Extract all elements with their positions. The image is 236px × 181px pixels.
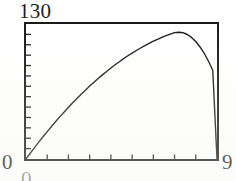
x-max-label: 9 xyxy=(222,152,233,173)
plot-frame xyxy=(24,22,219,161)
y-max-label: 130 xyxy=(19,1,51,22)
data-curve xyxy=(26,32,217,159)
y-axis-ticks xyxy=(26,34,31,148)
y-min-label: 0 xyxy=(2,152,13,173)
graph-screen: 130 0 9 0 xyxy=(0,0,236,181)
plot-canvas xyxy=(26,24,217,159)
x-axis-ticks xyxy=(47,155,196,160)
x-min-label: 0 xyxy=(21,169,32,181)
